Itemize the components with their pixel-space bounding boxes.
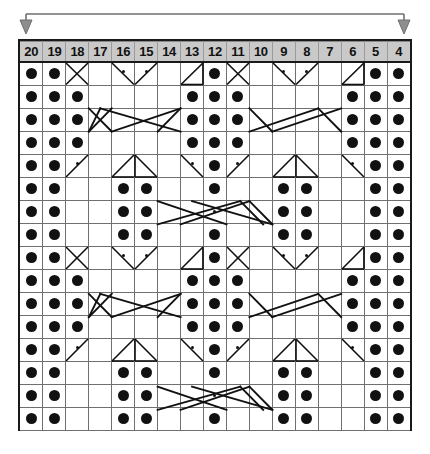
cell-purl[interactable] (272, 177, 295, 200)
cell-peak-left[interactable] (272, 338, 295, 361)
chart-grid[interactable]: 2019181716151413121110987654 (18, 39, 412, 431)
cell-purl[interactable] (43, 223, 66, 246)
cell-right-diagonal-yo[interactable] (295, 246, 318, 269)
cell-purl[interactable] (43, 292, 66, 315)
cell-knit[interactable] (66, 200, 89, 223)
cell-purl[interactable] (364, 131, 387, 154)
cell-knit[interactable] (158, 154, 181, 177)
cell-purl[interactable] (112, 384, 135, 407)
cell-purl[interactable] (20, 200, 43, 223)
cell-purl[interactable] (20, 338, 43, 361)
cell-purl[interactable] (272, 200, 295, 223)
cell-purl[interactable] (20, 269, 43, 292)
cell-purl[interactable] (226, 85, 249, 108)
cell-knit[interactable] (89, 407, 112, 430)
cell-purl[interactable] (204, 246, 227, 269)
cell-purl[interactable] (20, 246, 43, 269)
cell-purl[interactable] (364, 177, 387, 200)
cell-purl[interactable] (295, 177, 318, 200)
cell-cable[interactable] (226, 200, 249, 223)
cell-peak-left[interactable] (272, 154, 295, 177)
cell-peak-left[interactable] (112, 338, 135, 361)
cell-purl[interactable] (43, 85, 66, 108)
cell-knit[interactable] (158, 361, 181, 384)
cell-knit[interactable] (318, 269, 341, 292)
cell-knit[interactable] (158, 338, 181, 361)
cell-purl[interactable] (226, 292, 249, 315)
cell-purl[interactable] (364, 85, 387, 108)
cell-knit[interactable] (158, 269, 181, 292)
cell-knit[interactable] (318, 384, 341, 407)
cell-knit[interactable] (341, 407, 364, 430)
cell-purl[interactable] (341, 131, 364, 154)
cell-purl[interactable] (364, 361, 387, 384)
cell-knit[interactable] (89, 384, 112, 407)
cell-knit[interactable] (249, 177, 272, 200)
cell-cross-decrease[interactable] (226, 62, 249, 85)
cell-cable[interactable] (158, 108, 181, 131)
cell-purl[interactable] (43, 108, 66, 131)
cell-right-diagonal-yo[interactable] (66, 338, 89, 361)
cell-knit[interactable] (272, 315, 295, 338)
cell-cable[interactable] (89, 108, 112, 131)
cell-knit[interactable] (318, 62, 341, 85)
cell-knit[interactable] (318, 85, 341, 108)
cell-purl[interactable] (364, 62, 387, 85)
cell-purl[interactable] (364, 338, 387, 361)
cell-purl[interactable] (112, 361, 135, 384)
cell-cable[interactable] (318, 108, 341, 131)
cell-purl[interactable] (341, 292, 364, 315)
cell-knit[interactable] (249, 407, 272, 430)
cell-purl[interactable] (20, 108, 43, 131)
cell-purl[interactable] (341, 269, 364, 292)
cell-knit[interactable] (89, 177, 112, 200)
cell-purl[interactable] (20, 315, 43, 338)
cell-knit[interactable] (295, 131, 318, 154)
cell-purl[interactable] (43, 177, 66, 200)
cell-left-diagonal-yo[interactable] (112, 62, 135, 85)
cell-knit[interactable] (89, 85, 112, 108)
cell-purl[interactable] (66, 292, 89, 315)
cell-purl[interactable] (295, 223, 318, 246)
cell-knit[interactable] (66, 223, 89, 246)
cell-purl[interactable] (43, 338, 66, 361)
cell-purl[interactable] (364, 292, 387, 315)
cell-knit[interactable] (181, 177, 204, 200)
cell-right-diagonal-yo[interactable] (66, 154, 89, 177)
cell-knit[interactable] (341, 177, 364, 200)
cell-purl[interactable] (181, 108, 204, 131)
cell-knit[interactable] (272, 131, 295, 154)
cell-cable[interactable] (135, 108, 158, 131)
cell-knit[interactable] (158, 85, 181, 108)
cell-knit[interactable] (112, 85, 135, 108)
cell-purl[interactable] (66, 315, 89, 338)
cell-purl[interactable] (226, 315, 249, 338)
cell-purl[interactable] (204, 154, 227, 177)
cell-purl[interactable] (204, 292, 227, 315)
cell-knit[interactable] (318, 407, 341, 430)
cell-peak-left[interactable] (112, 154, 135, 177)
cell-knit[interactable] (66, 361, 89, 384)
cell-purl[interactable] (204, 108, 227, 131)
cell-knit[interactable] (226, 407, 249, 430)
cell-purl[interactable] (364, 384, 387, 407)
cell-purl[interactable] (272, 407, 295, 430)
cell-purl[interactable] (272, 384, 295, 407)
cell-right-diagonal-yo[interactable] (295, 62, 318, 85)
cell-knit[interactable] (112, 131, 135, 154)
cell-knit[interactable] (226, 361, 249, 384)
cell-knit[interactable] (89, 246, 112, 269)
cell-knit[interactable] (66, 177, 89, 200)
cell-purl[interactable] (20, 384, 43, 407)
cell-purl[interactable] (20, 292, 43, 315)
cell-knit[interactable] (89, 315, 112, 338)
cell-purl[interactable] (387, 85, 410, 108)
cell-knit[interactable] (66, 384, 89, 407)
cell-knit[interactable] (249, 131, 272, 154)
cell-purl[interactable] (204, 338, 227, 361)
cell-knit[interactable] (158, 177, 181, 200)
cell-cable[interactable] (112, 108, 135, 131)
cell-purl[interactable] (204, 315, 227, 338)
cell-purl[interactable] (43, 62, 66, 85)
cell-knit[interactable] (249, 361, 272, 384)
